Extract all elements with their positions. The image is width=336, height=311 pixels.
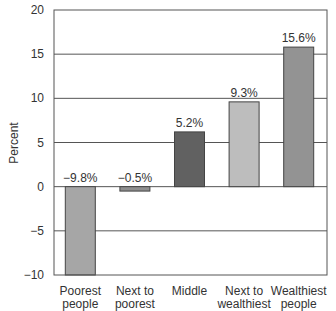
y-tick-label: −10 <box>24 268 45 282</box>
bar <box>65 187 95 275</box>
data-label: −9.8% <box>63 171 98 185</box>
y-tick-label: −5 <box>30 224 44 238</box>
category-label: wealthiest <box>216 297 271 311</box>
category-label: Next to <box>116 284 154 298</box>
bar <box>120 187 150 191</box>
y-tick-label: 10 <box>31 91 45 105</box>
bar <box>175 132 205 187</box>
category-label: Next to <box>225 284 263 298</box>
category-label: people <box>281 297 317 311</box>
x-axis-categories: PoorestpeopleNext topoorestMiddleNext to… <box>60 284 328 311</box>
bar <box>229 102 259 187</box>
bar-chart: −10−505101520 −9.8%−0.5%5.2%9.3%15.6% Po… <box>0 0 336 311</box>
bar <box>284 47 314 187</box>
data-label: −0.5% <box>118 171 153 185</box>
category-label: Middle <box>172 284 208 298</box>
category-label: Wealthiest <box>271 284 327 298</box>
data-label: 15.6% <box>282 31 316 45</box>
y-tick-label: 20 <box>31 3 45 17</box>
y-tick-label: 0 <box>37 180 44 194</box>
y-tick-label: 5 <box>37 136 44 150</box>
y-tick-label: 15 <box>31 47 45 61</box>
data-label: 9.3% <box>230 86 258 100</box>
bars <box>65 47 313 275</box>
category-label: poorest <box>115 297 156 311</box>
category-label: Poorest <box>60 284 102 298</box>
y-axis-label: Percent <box>7 122 21 164</box>
y-axis-ticks: −10−505101520 <box>24 3 45 282</box>
category-label: people <box>62 297 98 311</box>
data-label: 5.2% <box>176 116 204 130</box>
